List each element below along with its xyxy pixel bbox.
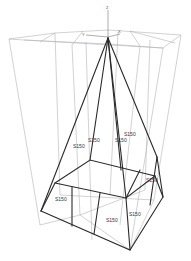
member-labels: S150 S150 S150 S150 S150 S150 S150 S150 <box>55 131 158 223</box>
wireframe-canvas[interactable]: Z X Y S150 S150 S150 S150 S150 S150 S150… <box>0 0 191 261</box>
z-axis-label: Z <box>106 5 109 10</box>
label-left-leg-upper: S150 <box>73 143 85 149</box>
axis-triad: Z X Y <box>82 5 121 37</box>
label-front-base: S150 <box>106 217 118 223</box>
label-right-leg-inner: S150 <box>115 137 127 143</box>
pyramid-members[interactable] <box>41 38 163 250</box>
x-axis-label: X <box>118 29 121 34</box>
y-axis-label: Y <box>82 32 85 37</box>
label-right-base-front: S150 <box>129 211 141 217</box>
label-center-leg-upper: S150 <box>88 137 100 143</box>
label-left-base: S150 <box>55 196 67 202</box>
label-right-base-back: S150 <box>146 177 158 183</box>
label-right-leg-upper: S150 <box>124 131 136 137</box>
